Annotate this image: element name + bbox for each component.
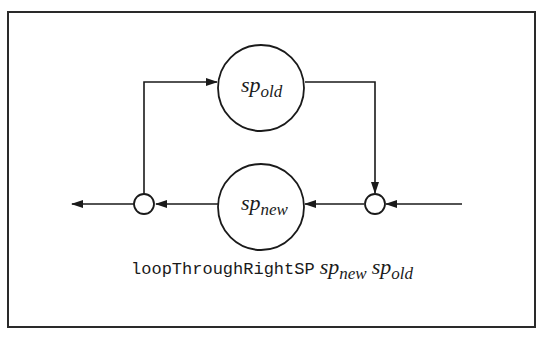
feedback-to-spold-arrow bbox=[144, 82, 217, 194]
spold-to-junction-arrow bbox=[305, 82, 375, 193]
junction-right bbox=[365, 194, 385, 214]
caption-arg1: spnew bbox=[320, 254, 367, 279]
junction-left bbox=[134, 194, 154, 214]
caption-arg2: spold bbox=[372, 254, 413, 279]
diagram-caption: loopThroughRightSP spnew spold bbox=[0, 254, 544, 284]
loop-diagram: spold spnew bbox=[0, 0, 544, 339]
caption-function: loopThroughRightSP bbox=[131, 260, 315, 279]
